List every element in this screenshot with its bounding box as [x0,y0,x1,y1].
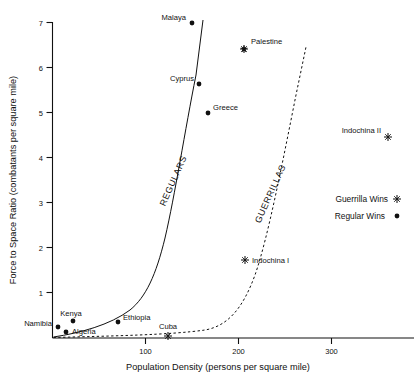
data-point-indochina-ii[interactable]: Indochina II [342,126,392,141]
legend-item-regular-wins[interactable]: Regular Wins [335,211,400,221]
data-point-malaya[interactable]: Malaya [162,13,195,25]
data-point-greece[interactable]: Greece [206,103,238,115]
point-label-cuba: Cuba [159,322,178,331]
y-tick-label-3: 3 [39,199,43,208]
y-tick-label-1: 1 [39,289,43,298]
x-tick-label-300: 300 [325,347,338,356]
dot-marker [56,325,61,330]
point-label-indochina-i: Indochina I [252,256,289,265]
point-label-kenya: Kenya [60,309,82,318]
point-label-namibia: Namibia [24,319,53,328]
force-to-space-ratio-chart: 7 6 5 4 3 2 1 100 200 300 Population Den… [0,0,418,380]
star-marker [241,256,249,264]
point-label-palestine: Palestine [251,37,282,46]
dot-marker [206,111,211,116]
y-tick-label-2: 2 [39,244,43,253]
point-label-cyprus: Cyprus [170,74,194,83]
x-axis: 100 200 300 [53,338,415,356]
dot-marker [190,21,195,26]
y-tick-label-5: 5 [39,109,43,118]
dot-marker [197,82,202,87]
star-marker [384,133,392,141]
data-point-kenya[interactable]: Kenya [60,309,82,323]
dot-marker [64,330,69,335]
x-tick-label-200: 200 [232,347,245,356]
y-axis: 7 6 5 4 3 2 1 [39,19,53,339]
data-point-palestine[interactable]: Palestine [240,37,282,53]
legend: Guerrilla Wins Regular Wins [335,194,401,221]
regulars-threshold-curve [54,20,204,337]
point-label-malaya: Malaya [162,13,187,22]
legend-label-guerrilla-wins: Guerrilla Wins [335,194,388,204]
x-axis-title: Population Density (persons per square m… [126,362,310,372]
y-tick-label-6: 6 [39,64,43,73]
series-regular-wins: Malaya Cyprus Greece Kenya Ethiopia Nami… [24,13,238,336]
dot-marker [116,320,121,325]
data-point-cuba[interactable]: Cuba [159,322,178,340]
x-tick-label-100: 100 [139,347,152,356]
point-label-algeria: Algeria [72,327,96,336]
y-axis-title: Force to Space Ratio (combatants per squ… [8,76,18,284]
star-icon [393,195,401,203]
data-point-indochina-i[interactable]: Indochina I [241,256,289,265]
data-point-ethiopia[interactable]: Ethiopia [116,313,152,324]
chart-svg: 7 6 5 4 3 2 1 100 200 300 Population Den… [0,0,418,380]
legend-item-guerrilla-wins[interactable]: Guerrilla Wins [335,194,401,204]
y-tick-label-7: 7 [39,19,43,28]
dot-icon [395,214,400,219]
point-label-indochina-ii: Indochina II [342,126,381,135]
data-point-namibia[interactable]: Namibia [24,319,60,329]
data-point-cyprus[interactable]: Cyprus [170,74,201,86]
legend-label-regular-wins: Regular Wins [335,211,385,221]
star-marker [240,45,248,53]
point-label-greece: Greece [213,103,238,112]
y-tick-label-4: 4 [39,154,43,163]
point-label-ethiopia: Ethiopia [123,313,151,322]
dot-marker [71,319,76,324]
star-marker [164,332,172,340]
curve-label-guerrillas: GUERRILLAS [253,163,288,225]
